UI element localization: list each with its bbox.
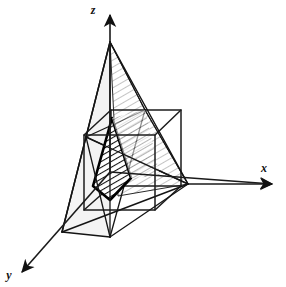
figure-root: z x y [0,0,286,287]
axis-label-x: x [260,161,267,175]
axis-label-z: z [90,3,96,17]
crystal-diagram: z x y [0,0,286,287]
axis-label-y: y [4,268,12,282]
